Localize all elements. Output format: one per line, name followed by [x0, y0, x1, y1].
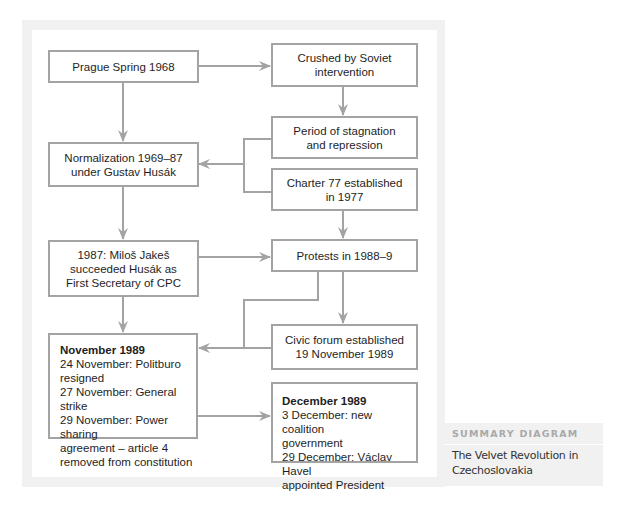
edge-bracket [244, 139, 271, 192]
node-title: November 1989 [60, 343, 145, 357]
node-prague-spring: Prague Spring 1968 [48, 50, 199, 83]
summary-caption-box: SUMMARY DIAGRAM The Velvet Revolution in… [444, 423, 603, 486]
node-text: Prague Spring 1968 [72, 60, 174, 74]
node-text: succeeded Husák as [70, 262, 177, 276]
node-text: under Gustav Husák [71, 165, 176, 179]
node-text: and repression [306, 138, 382, 152]
node-text: removed from constitution [60, 455, 192, 469]
node-text: 29 November: Power sharing [60, 413, 196, 441]
node-text: Period of stagnation [293, 124, 395, 138]
node-text: 29 December: Václav Havel [282, 450, 416, 478]
node-text: agreement – article 4 [60, 441, 168, 455]
summary-heading: SUMMARY DIAGRAM [452, 428, 579, 439]
node-november-1989: November 1989 24 November: Politburo res… [48, 333, 198, 439]
node-text: Charter 77 established [287, 176, 403, 190]
node-text: Protests in 1988–9 [297, 249, 393, 263]
node-text: 19 November 1989 [296, 347, 394, 361]
node-text: appointed President [282, 478, 384, 492]
node-text: in 1977 [326, 190, 364, 204]
node-text: Crushed by Soviet [298, 51, 392, 65]
node-stagnation: Period of stagnation and repression [271, 116, 418, 159]
summary-divider [444, 444, 603, 445]
node-title: December 1989 [282, 394, 366, 408]
node-jakes: 1987: Miloš Jakeš succeeded Husák as Fir… [48, 240, 199, 297]
node-text: intervention [315, 65, 374, 79]
caption-line: The Velvet Revolution in [452, 448, 602, 463]
node-crushed: Crushed by Soviet intervention [271, 43, 418, 87]
node-text: First Secretary of CPC [66, 276, 181, 290]
node-text: Normalization 1969–87 [64, 151, 182, 165]
node-december-1989: December 1989 3 December: new coalition … [271, 382, 418, 463]
node-text: 1987: Miloš Jakeš [77, 248, 169, 262]
node-text: resigned [60, 371, 104, 385]
node-charter77: Charter 77 established in 1977 [271, 168, 418, 211]
caption-line: Czechoslovakia [452, 463, 602, 478]
node-text: 3 December: new coalition [282, 408, 416, 436]
node-text: 24 November: Politburo [60, 357, 181, 371]
node-civic-forum: Civic forum established 19 November 1989 [271, 324, 418, 370]
node-text: government [282, 436, 343, 450]
node-protests: Protests in 1988–9 [271, 239, 418, 272]
node-text: 27 November: General strike [60, 385, 196, 413]
summary-caption: The Velvet Revolution in Czechoslovakia [452, 448, 602, 478]
node-text: Civic forum established [285, 333, 404, 347]
node-normalization: Normalization 1969–87 under Gustav Husák [48, 142, 199, 187]
